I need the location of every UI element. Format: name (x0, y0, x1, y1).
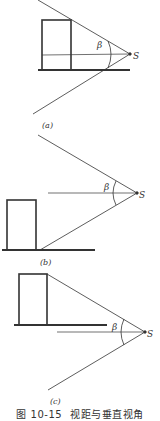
lower-sight-line (33, 54, 130, 114)
upper-sight-line (47, 274, 145, 332)
angle-label-c: β (111, 322, 117, 332)
upper-sight-line (38, 135, 137, 193)
building (42, 20, 71, 70)
viewpoint-dot (136, 192, 138, 194)
caption-title: 视距与垂直视角 (70, 409, 144, 420)
lower-sight-line (40, 193, 137, 250)
caption-number: 图 10-15 (16, 409, 62, 420)
panel-label-c: (c) (50, 397, 61, 406)
viewpoint-dot (129, 53, 131, 55)
lower-sight-line (48, 332, 145, 390)
panel-label-b: (b) (40, 258, 51, 267)
building (19, 274, 47, 325)
building (7, 200, 36, 250)
figure-caption: 图 10-15视距与垂直视角 (0, 406, 160, 421)
point-label-a: S (133, 51, 139, 61)
panel-label-a: (a) (42, 121, 53, 130)
panel-b (2, 135, 138, 250)
viewpoint-dot (144, 331, 146, 333)
panel-c (14, 274, 146, 390)
angle-label-b: β (103, 182, 109, 192)
eye-level-line (42, 54, 130, 55)
figure-canvas: β S (a) β S (b) β S (c) (0, 0, 160, 421)
panel-a (33, 0, 131, 114)
angle-label-a: β (96, 40, 102, 50)
point-label-c: S (147, 329, 153, 339)
point-label-b: S (139, 190, 145, 200)
upper-sight-line (38, 0, 130, 54)
